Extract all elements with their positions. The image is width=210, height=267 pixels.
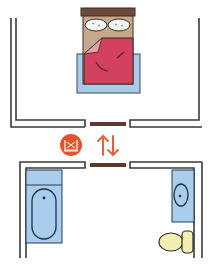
- bathroom-sign-icon: [60, 134, 82, 156]
- hallway: [60, 134, 118, 156]
- up-down-arrows-icon: [98, 136, 118, 155]
- bed-headboard: [81, 8, 135, 16]
- washbasin: [172, 170, 194, 222]
- bathtub: [26, 170, 62, 243]
- bed: [77, 8, 140, 93]
- pillow-right: [108, 19, 130, 31]
- bathroom-door: [90, 163, 126, 167]
- toilet: [159, 231, 193, 253]
- bedroom-door: [90, 122, 126, 126]
- floor-plan: [0, 0, 210, 267]
- pillow-left: [85, 19, 107, 31]
